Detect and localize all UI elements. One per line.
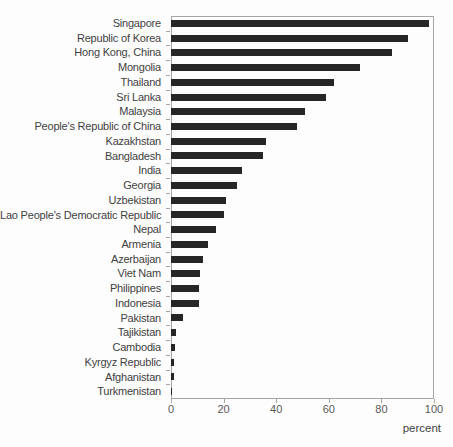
- y-tick: [166, 222, 170, 223]
- plot-area: [171, 16, 434, 399]
- y-tick: [166, 119, 170, 120]
- y-tick: [166, 340, 170, 341]
- category-label: Philippines: [0, 281, 166, 296]
- category-label: Malaysia: [0, 104, 166, 119]
- category-label: India: [0, 163, 166, 178]
- category-label: Afghanistan: [0, 370, 166, 385]
- y-tick: [166, 355, 170, 356]
- bar: [171, 373, 174, 380]
- category-label: Kyrgyz Republic: [0, 355, 166, 370]
- bar: [171, 138, 266, 145]
- x-axis-title: percent: [403, 422, 441, 434]
- bar: [171, 197, 226, 204]
- y-tick: [166, 325, 170, 326]
- category-label: Tajikistan: [0, 325, 166, 340]
- bar: [171, 344, 175, 351]
- bar: [171, 94, 326, 101]
- y-tick: [166, 281, 170, 282]
- y-tick: [166, 134, 170, 135]
- bar: [171, 167, 242, 174]
- x-tick-label: 0: [154, 403, 188, 415]
- category-label: Uzbekistan: [0, 193, 166, 208]
- bar: [171, 211, 224, 218]
- category-label: Sri Lanka: [0, 90, 166, 105]
- category-label: Nepal: [0, 222, 166, 237]
- category-label: Azerbaijan: [0, 252, 166, 267]
- bar: [171, 35, 408, 42]
- category-label: People's Republic of China: [0, 119, 166, 134]
- x-tick-label: 60: [312, 403, 346, 415]
- bar: [171, 388, 172, 395]
- bar: [171, 20, 429, 27]
- category-label: Indonesia: [0, 296, 166, 311]
- bar-chart-figure: SingaporeRepublic of KoreaHong Kong, Chi…: [0, 0, 453, 447]
- x-tick-label: 100: [417, 403, 451, 415]
- y-tick: [166, 266, 170, 267]
- bar: [171, 123, 297, 130]
- x-tick-label: 40: [259, 403, 293, 415]
- y-tick: [166, 31, 170, 32]
- bar: [171, 108, 305, 115]
- x-tick-label: 20: [207, 403, 241, 415]
- bar: [171, 64, 360, 71]
- y-tick: [166, 296, 170, 297]
- y-tick: [166, 60, 170, 61]
- bar: [171, 359, 174, 366]
- category-label: Hong Kong, China: [0, 45, 166, 60]
- y-tick: [166, 237, 170, 238]
- category-label: Viet Nam: [0, 266, 166, 281]
- category-label: Cambodia: [0, 340, 166, 355]
- y-tick: [166, 104, 170, 105]
- category-label: Bangladesh: [0, 149, 166, 164]
- bar: [171, 285, 199, 292]
- category-label: Pakistan: [0, 311, 166, 326]
- bar: [171, 270, 200, 277]
- x-tick-label: 80: [364, 403, 398, 415]
- category-label: Singapore: [0, 16, 166, 31]
- y-tick: [166, 311, 170, 312]
- bar: [171, 49, 392, 56]
- y-tick: [166, 193, 170, 194]
- y-tick: [166, 149, 170, 150]
- category-label: Thailand: [0, 75, 166, 90]
- y-tick: [166, 384, 170, 385]
- bar: [171, 300, 199, 307]
- bar: [171, 226, 216, 233]
- bar: [171, 241, 208, 248]
- y-tick: [166, 208, 170, 209]
- y-tick: [166, 252, 170, 253]
- y-tick: [166, 45, 170, 46]
- category-label: Mongolia: [0, 60, 166, 75]
- bar: [171, 152, 263, 159]
- bar: [171, 329, 176, 336]
- y-tick: [166, 90, 170, 91]
- y-tick: [166, 163, 170, 164]
- y-tick: [166, 75, 170, 76]
- y-tick: [166, 370, 170, 371]
- bar: [171, 314, 183, 321]
- category-label: Georgia: [0, 178, 166, 193]
- bar: [171, 182, 237, 189]
- category-label: Armenia: [0, 237, 166, 252]
- category-label: Lao People's Democratic Republic: [0, 208, 166, 223]
- category-label: Republic of Korea: [0, 31, 166, 46]
- bar: [171, 256, 203, 263]
- category-label: Turkmenistan: [0, 384, 166, 399]
- category-label: Kazakhstan: [0, 134, 166, 149]
- y-tick: [166, 178, 170, 179]
- bar: [171, 79, 334, 86]
